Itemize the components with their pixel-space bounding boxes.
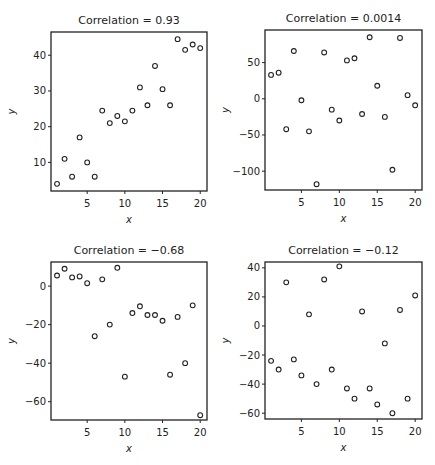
data-point-marker [115, 265, 120, 270]
data-point-marker [405, 396, 410, 401]
data-point-marker [352, 396, 357, 401]
data-point-marker [100, 277, 105, 282]
data-point-marker [145, 103, 150, 108]
y-tick-label: −50 [239, 129, 260, 140]
data-point-marker [276, 367, 281, 372]
data-point-marker [382, 114, 387, 119]
y-tick-label: 30 [33, 85, 46, 96]
data-point-marker [398, 36, 403, 41]
data-point-marker [345, 386, 350, 391]
data-point-marker [153, 64, 158, 69]
data-point-marker [360, 309, 365, 314]
x-tick-label: 10 [333, 197, 346, 208]
y-tick-label: −20 [25, 319, 46, 330]
y-tick-label: 0 [254, 93, 260, 104]
data-point-marker [307, 129, 312, 134]
x-tick-label: 10 [118, 198, 131, 209]
data-point-marker [190, 303, 195, 308]
data-point-marker [62, 266, 67, 271]
y-tick-label: −40 [239, 379, 260, 390]
data-point-marker [291, 357, 296, 362]
data-point-marker [367, 386, 372, 391]
y-axis-label: y [6, 337, 17, 345]
data-point-marker [122, 119, 127, 124]
panel-top-right: Correlation = 0.0014 x y 5101520−100−500… [220, 12, 422, 224]
x-axis-label: x [125, 214, 132, 225]
data-point-marker [70, 275, 75, 280]
data-point-marker [175, 37, 180, 42]
x-axis-label: x [340, 213, 347, 224]
data-point-marker [85, 160, 90, 165]
figure-canvas: Correlation = 0.93 x y 510152010203040 C… [0, 0, 435, 465]
data-point-marker [322, 277, 327, 282]
data-point-marker [284, 280, 289, 285]
y-tick-label: −100 [233, 166, 260, 177]
x-tick-label: 20 [194, 198, 207, 209]
y-tick-label: −20 [239, 350, 260, 361]
y-tick-label: −40 [25, 358, 46, 369]
data-point-marker [122, 374, 127, 379]
panel-title: Correlation = 0.93 [78, 14, 179, 27]
data-point-marker [168, 372, 173, 377]
data-point-marker [382, 341, 387, 346]
y-tick-label: 40 [247, 262, 260, 273]
x-tick-label: 15 [371, 197, 384, 208]
data-point-marker [307, 312, 312, 317]
data-point-marker [130, 108, 135, 113]
y-tick-label: 20 [247, 291, 260, 302]
panel-title: Correlation = −0.68 [74, 244, 185, 257]
data-point-marker [345, 58, 350, 63]
plot-frame [51, 262, 207, 420]
data-point-marker [175, 315, 180, 320]
y-tick-label: 50 [247, 57, 260, 68]
data-point-marker [92, 334, 97, 339]
data-point-marker [322, 50, 327, 55]
data-point-marker [284, 127, 289, 132]
data-point-marker [183, 361, 188, 366]
data-point-marker [138, 304, 143, 309]
y-tick-label: 0 [254, 320, 260, 331]
plot-frame [265, 262, 422, 419]
data-point-marker [77, 135, 82, 140]
data-point-marker [160, 318, 165, 323]
y-tick-label: 20 [33, 121, 46, 132]
data-point-marker [390, 411, 395, 416]
data-point-marker [100, 108, 105, 113]
x-tick-label: 10 [118, 427, 131, 438]
data-point-marker [337, 264, 342, 269]
data-point-marker [375, 402, 380, 407]
y-tick-label: −60 [239, 408, 260, 419]
x-tick-label: 10 [333, 426, 346, 437]
panel-title: Correlation = −0.12 [288, 244, 399, 257]
data-point-marker [130, 311, 135, 316]
x-tick-label: 20 [409, 426, 422, 437]
data-point-marker [107, 121, 112, 126]
y-tick-label: −60 [25, 396, 46, 407]
data-point-marker [55, 273, 60, 278]
panel-bottom-left: Correlation = −0.68 x y 5101520−60−40−20… [6, 244, 207, 454]
data-point-marker [183, 47, 188, 52]
data-point-marker [360, 112, 365, 117]
data-point-marker [405, 93, 410, 98]
data-point-marker [398, 308, 403, 313]
x-tick-label: 5 [298, 426, 304, 437]
data-point-marker [153, 313, 158, 318]
x-tick-label: 20 [194, 427, 207, 438]
y-axis-label: y [220, 106, 231, 114]
y-axis-label: y [220, 336, 231, 344]
x-tick-label: 15 [371, 426, 384, 437]
data-point-marker [276, 70, 281, 75]
data-point-marker [390, 167, 395, 172]
data-point-marker [329, 367, 334, 372]
data-point-marker [198, 46, 203, 51]
data-point-marker [160, 87, 165, 92]
data-point-marker [314, 182, 319, 187]
data-point-marker [77, 274, 82, 279]
data-point-marker [299, 373, 304, 378]
x-axis-label: x [125, 443, 132, 454]
panel-bottom-right: Correlation = −0.12 x y 5101520−60−40−20… [220, 244, 422, 453]
data-point-marker [329, 107, 334, 112]
plot-frame [51, 32, 207, 191]
data-point-marker [70, 174, 75, 179]
data-point-marker [367, 35, 372, 40]
